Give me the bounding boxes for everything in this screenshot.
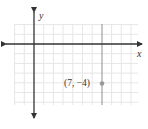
x-axis-label: x [136, 48, 142, 59]
y-axis-label: y [38, 10, 44, 21]
coordinate-graph: x y (7, −4) [0, 0, 148, 129]
point-7-neg4 [100, 81, 105, 86]
point-label: (7, −4) [64, 78, 90, 89]
grid [15, 24, 138, 105]
